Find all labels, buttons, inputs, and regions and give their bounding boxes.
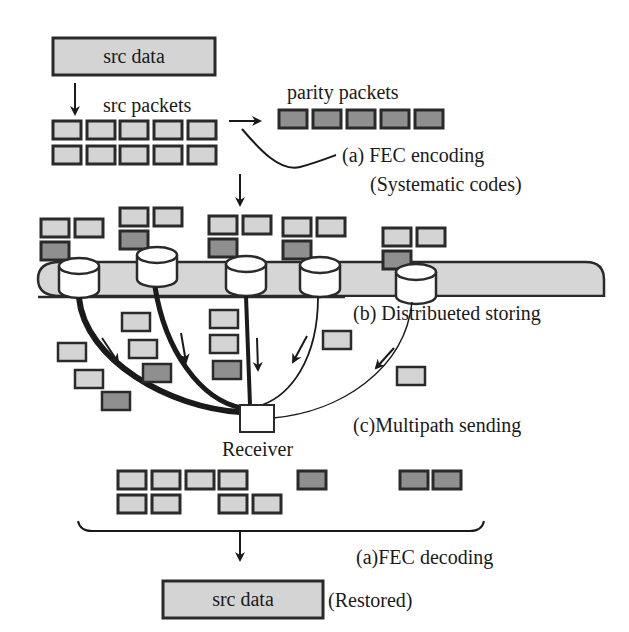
multipath-sending-label: (c)Multipath sending — [353, 414, 521, 436]
curly-brace — [78, 521, 484, 531]
src-data-label-bottom: src data — [163, 588, 323, 610]
received-packets — [118, 471, 461, 513]
src-packets-grid — [53, 121, 216, 164]
database-icon — [226, 256, 266, 296]
src-data-label-top: src data — [53, 45, 215, 67]
distributed-storing-label: (b) Distribueted storing — [353, 302, 541, 324]
src-packets-label: src packets — [103, 94, 191, 116]
database-icon — [300, 257, 340, 297]
receiver-label: Receiver — [222, 438, 293, 460]
parity-packets-row — [279, 110, 443, 128]
receiver-box — [240, 405, 274, 432]
parity-packets-label: parity packets — [287, 81, 399, 103]
database-icon — [137, 247, 177, 287]
database-icon — [59, 258, 99, 298]
fec-decoding-label: (a)FEC decoding — [356, 546, 493, 568]
leader-line — [242, 129, 336, 168]
database-icon — [396, 264, 436, 304]
restored-label: (Restored) — [328, 589, 412, 611]
fec-encoding-label: (a) FEC encoding — [342, 144, 484, 166]
systematic-codes-label: (Systematic codes) — [370, 173, 522, 195]
